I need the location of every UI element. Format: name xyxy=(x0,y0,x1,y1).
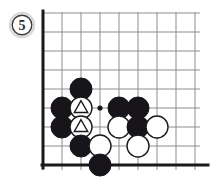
figure-label-badge: 5 xyxy=(10,13,34,37)
go-diagram-container: 5 xyxy=(0,0,215,180)
white-stone[interactable] xyxy=(146,116,168,138)
stone-disc xyxy=(89,154,111,176)
black-stone[interactable] xyxy=(89,154,111,176)
go-board-diagram: 5 xyxy=(0,0,215,180)
star-point xyxy=(97,105,102,110)
stone-disc xyxy=(127,135,149,157)
stone-disc xyxy=(146,116,168,138)
figure-number-text: 5 xyxy=(19,18,26,33)
star-points xyxy=(97,105,102,110)
white-stone[interactable] xyxy=(127,135,149,157)
figure-number-badge: 5 xyxy=(10,13,34,37)
